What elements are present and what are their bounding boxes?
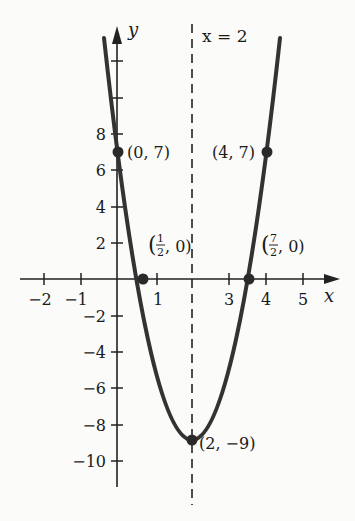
label-point-0-7: (0, 7)	[127, 143, 170, 162]
svg-text:(: (	[148, 232, 157, 257]
svg-text:, 0): , 0)	[278, 237, 305, 256]
y-axis-label: y	[127, 19, 139, 40]
y-tick-label: 4	[96, 198, 106, 217]
point-root-1	[138, 274, 149, 285]
y-tick-label: −8	[82, 416, 106, 435]
point-vertex	[187, 435, 198, 446]
x-tick-label: 3	[224, 290, 234, 309]
svg-text:, 0): , 0)	[165, 237, 192, 256]
point-4-7	[262, 147, 273, 158]
y-axis-arrow-icon	[112, 26, 122, 44]
parabola-chart: y x x = 2 −2 −1 1 3 4 5 8 6 4 2 −2 −4 −6…	[0, 0, 355, 521]
svg-text:2: 2	[157, 246, 164, 259]
svg-text:2: 2	[270, 246, 277, 259]
y-tick-label: −10	[72, 452, 106, 471]
y-tick-label: 8	[96, 125, 106, 144]
y-tick-label: 2	[96, 234, 106, 253]
label-root-1: ( 1 2 , 0)	[148, 232, 192, 259]
label-point-4-7: (4, 7)	[212, 143, 255, 162]
svg-text:7: 7	[270, 232, 277, 245]
x-axis-arrow-icon	[324, 274, 340, 284]
svg-text:(: (	[261, 232, 270, 257]
y-tick-label: −6	[82, 379, 106, 398]
point-root-2	[244, 274, 255, 285]
y-tick-label: −2	[82, 307, 106, 326]
svg-text:1: 1	[157, 232, 164, 245]
label-vertex: (2, −9)	[199, 434, 255, 453]
x-tick-label: −2	[28, 290, 52, 309]
x-tick-label: 1	[153, 290, 163, 309]
y-tick-label: −4	[82, 343, 106, 362]
x-tick-label: 5	[298, 290, 308, 309]
point-0-7	[113, 147, 124, 158]
symmetry-label: x = 2	[202, 26, 247, 46]
x-tick-label: 4	[261, 290, 271, 309]
y-tick-label: 6	[96, 161, 106, 180]
x-axis-label: x	[324, 285, 334, 306]
label-root-2: ( 7 2 , 0)	[261, 232, 305, 259]
